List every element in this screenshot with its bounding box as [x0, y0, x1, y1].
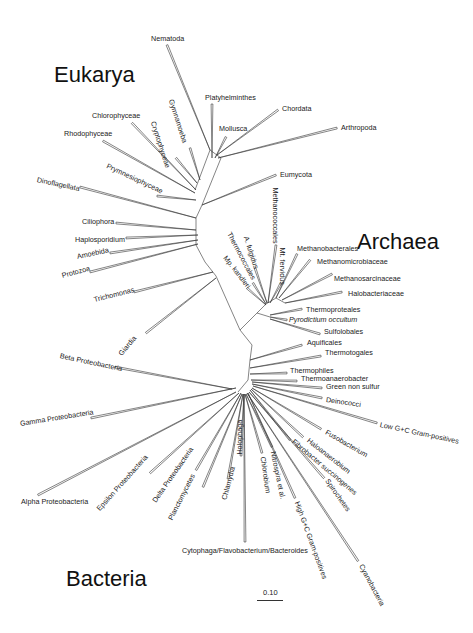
taxon-label-holophaga: Holophaga	[236, 420, 243, 455]
domain-label-eukarya: Eukarya	[54, 62, 135, 88]
taxon-label-chlorophyceae: Chlorophyceae	[92, 112, 140, 119]
taxon-label-arthropoda: Arthropoda	[341, 124, 377, 131]
branch-eumycota	[202, 174, 276, 205]
taxon-label-nematoda: Nematoda	[151, 35, 184, 42]
branch-pyrodictium	[270, 317, 287, 321]
branch-green_non_sulfur	[252, 382, 322, 389]
taxon-label-thermotogales: Thermotogales	[325, 349, 373, 356]
domain-label-archaea: Archaea	[357, 229, 439, 255]
branch-giardia	[145, 278, 216, 334]
backbone-path	[257, 313, 270, 317]
branch-thermophiles	[250, 372, 287, 374]
taxon-label-methanococcales: Methanococcales	[271, 188, 278, 244]
taxon-label-green-non-sulfur: Green non sulfur	[326, 383, 380, 390]
taxon-label-chordata: Chordata	[282, 105, 312, 112]
taxon-label-mt-fervidus: Mt. fervidus	[278, 248, 285, 285]
branch-fusobacterium	[252, 388, 321, 430]
backbone-path	[240, 298, 285, 330]
branch-platyhelminthes	[211, 104, 213, 158]
taxon-label-haplosporidium: Haplosporidium	[75, 236, 125, 243]
branch-beta_proteo	[115, 366, 232, 389]
taxon-label-ciliophora: Ciliophora	[82, 218, 114, 225]
branch-dinoflagellata	[80, 186, 196, 218]
taxon-label-cytophaga: Cytophaga/Flavobacterium/Bacteroides	[182, 547, 308, 554]
domain-label-bacteria: Bacteria	[66, 566, 147, 592]
taxon-label-sulfolobales: Sulfolobales	[324, 328, 363, 335]
taxon-label-rhodophyceae: Rhodophyceae	[64, 130, 112, 137]
branch-epsilon_proteo	[149, 393, 239, 474]
taxon-label-halobacteriaceae: Halobacteriaceae	[348, 290, 404, 297]
taxon-label-eumycota: Eumycota	[280, 171, 312, 178]
branch-nematoda	[166, 45, 210, 150]
branch-alpha_proteo	[38, 392, 236, 496]
branch-thermoproteales	[270, 308, 302, 315]
taxon-label-pyrodictium: Pyrodictium occultum	[289, 316, 357, 323]
scale-bar-label: 0.10	[263, 588, 278, 597]
taxon-label-alpha-proteo: Alpha Proteobacteria	[21, 498, 88, 505]
branch-cytophaga	[244, 394, 246, 542]
taxon-label-methanomicrobiaceae: Methanomicrobiaceae	[317, 258, 388, 265]
branch-prymnesiophyceae	[157, 195, 196, 200]
branch-mollusca	[215, 137, 227, 158]
taxon-label-mollusca: Mollusca	[219, 125, 247, 132]
taxon-label-platyhelminthes: Platyhelminthes	[205, 94, 256, 101]
scale-bar	[257, 600, 283, 601]
branch-delta_proteo	[195, 393, 241, 470]
branch-aquificales	[250, 344, 302, 360]
taxon-label-methanobacterales: Methanobacterales	[297, 245, 358, 252]
branch-haplosporidium	[126, 235, 198, 239]
branch-halobacteriaceae	[285, 291, 342, 303]
taxon-label-aquificales: Aquificales	[307, 339, 342, 346]
taxon-label-thermoproteales: Thermoproteales	[306, 306, 360, 313]
branch-ciliophora	[116, 222, 196, 230]
taxon-label-methanosarcinaceae: Methanosarcinaceae	[334, 275, 401, 282]
branch-thermoanaerobacter	[251, 380, 297, 382]
